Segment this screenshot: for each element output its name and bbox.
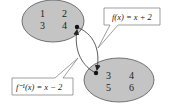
domain-value-3: 3 xyxy=(40,20,45,31)
domain-value-1: 1 xyxy=(40,8,45,19)
f-inverse-callout-text: f⁻¹(x) = x − 2 xyxy=(16,82,63,92)
range-value-5: 5 xyxy=(106,82,111,93)
f-callout: f(x) = x + 2 xyxy=(98,8,160,48)
domain-value-2: 2 xyxy=(62,8,67,19)
inverse-mapping-arrow xyxy=(76,30,94,72)
range-value-6: 6 xyxy=(129,82,134,93)
range-set-ellipse xyxy=(84,58,154,102)
function-mapping-diagram: 1 2 3 4 3 4 5 6 f(x) = x + 2 f⁻¹(x) = x … xyxy=(0,0,170,110)
domain-set-ellipse xyxy=(22,0,84,42)
domain-value-4: 4 xyxy=(62,20,67,31)
domain-point-dot xyxy=(75,25,79,29)
f-inverse-callout: f⁻¹(x) = x − 2 xyxy=(12,58,78,95)
f-callout-text: f(x) = x + 2 xyxy=(112,12,153,22)
range-value-4: 4 xyxy=(129,70,134,81)
range-point-dot xyxy=(94,71,98,75)
range-value-3: 3 xyxy=(106,70,111,81)
